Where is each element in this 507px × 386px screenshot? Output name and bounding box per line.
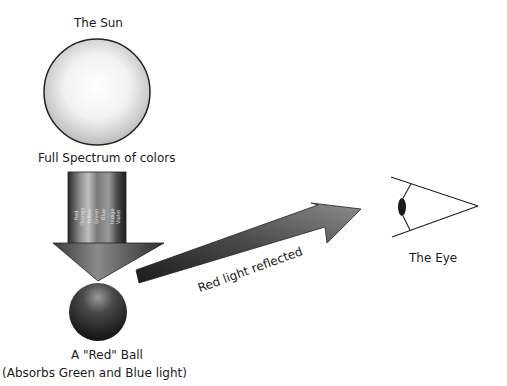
ball-sublabel: (Absorbs Green and Blue light): [2, 366, 187, 380]
sun-label: The Sun: [74, 16, 123, 30]
eye-lens: [398, 198, 406, 216]
diagram-canvas: [0, 0, 507, 386]
spectrum-color-list: Red Orange Yellow Green Blue Indigo Viol…: [73, 198, 123, 230]
spectrum-label: Full Spectrum of colors: [38, 151, 175, 165]
spectrum-color-yellow: Yellow: [86, 209, 92, 224]
eye-label: The Eye: [409, 251, 457, 265]
spectrum-color-orange: Orange: [79, 208, 85, 226]
red-ball: [69, 283, 127, 341]
spectrum-color-green: Green: [93, 209, 99, 224]
spectrum-color-violet: Violet: [115, 210, 121, 224]
spectrum-color-blue: Blue: [100, 209, 106, 220]
sun-circle: [44, 39, 150, 145]
eye-icon: [391, 177, 478, 237]
ball-label: A "Red" Ball: [71, 348, 143, 362]
